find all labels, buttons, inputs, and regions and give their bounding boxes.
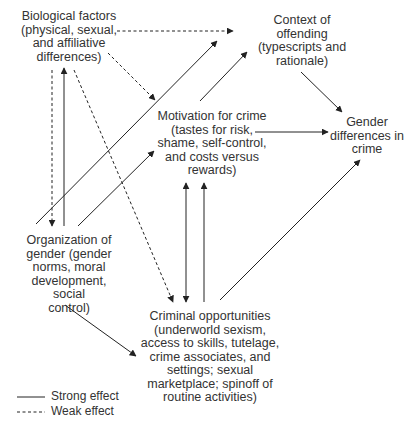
edge-organization-to-motivation xyxy=(78,151,154,226)
node-organization-of-gender: Organization of gender (gender norms, mo… xyxy=(14,234,124,315)
edge-context-to-gender-diff xyxy=(301,72,342,112)
solid-line-icon xyxy=(17,394,45,400)
legend-weak: Weak effect xyxy=(17,405,114,418)
node-context-of-offending: Context of offending (typescripts and ra… xyxy=(252,14,352,68)
edge-opportunities-to-gender-diff xyxy=(220,160,360,300)
dashed-line-icon xyxy=(17,409,45,415)
node-gender-differences: Gender differences in crime xyxy=(326,116,408,157)
legend-strong: Strong effect xyxy=(17,390,119,403)
diagram-canvas: Biological factors (physical, sexual, an… xyxy=(0,0,410,435)
legend-strong-label: Strong effect xyxy=(51,390,119,403)
node-biological-factors: Biological factors (physical, sexual, an… xyxy=(14,10,124,64)
node-criminal-opportunities: Criminal opportunities (underworld sexis… xyxy=(140,310,280,405)
legend-weak-label: Weak effect xyxy=(51,405,114,418)
edge-motivation-to-context xyxy=(200,52,247,101)
node-motivation-for-crime: Motivation for crime (tastes for risk, s… xyxy=(152,110,272,178)
